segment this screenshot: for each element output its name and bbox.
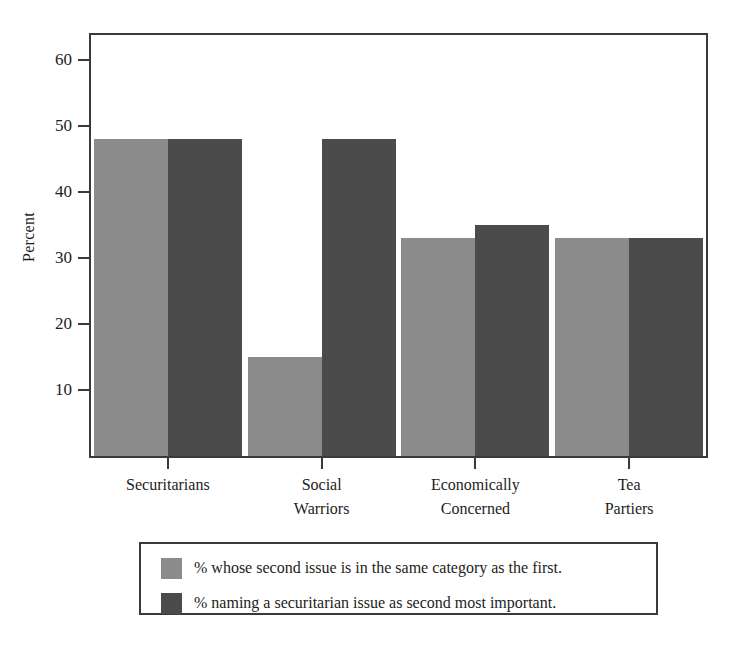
legend-swatch — [161, 593, 182, 614]
y-tick-label: 10 — [28, 378, 72, 402]
x-tick-mark — [321, 458, 323, 469]
legend-swatch — [161, 558, 182, 579]
legend-entry: % whose second issue is in the same cate… — [161, 556, 562, 580]
y-tick-label: 40 — [28, 180, 72, 204]
bar — [629, 238, 703, 456]
bar — [168, 139, 242, 456]
bar — [94, 139, 168, 456]
y-tick-mark — [78, 323, 89, 325]
y-tick-mark — [78, 59, 89, 61]
y-tick-label: 30 — [28, 246, 72, 270]
bar-chart-figure: Percent 102030405060 SecuritariansSocial… — [0, 0, 741, 665]
x-tick-label-line: Partiers — [539, 497, 719, 521]
x-tick-label-line: Tea — [539, 473, 719, 497]
x-tick-label: TeaPartiers — [539, 473, 719, 521]
bar — [322, 139, 396, 456]
x-tick-mark — [628, 458, 630, 469]
legend-label: % whose second issue is in the same cate… — [194, 559, 562, 577]
legend-entry: % naming a securitarian issue as second … — [161, 591, 556, 615]
x-tick-mark — [167, 458, 169, 469]
y-tick-mark — [78, 125, 89, 127]
y-tick-label: 50 — [28, 114, 72, 138]
bar — [401, 238, 475, 456]
y-tick-mark — [78, 191, 89, 193]
bar — [248, 357, 322, 456]
y-tick-label: 60 — [28, 48, 72, 72]
bars-layer — [91, 35, 706, 456]
chart-legend: % whose second issue is in the same cate… — [139, 542, 658, 615]
legend-label: % naming a securitarian issue as second … — [194, 594, 556, 612]
y-tick-mark — [78, 257, 89, 259]
y-tick-label: 20 — [28, 312, 72, 336]
bar — [555, 238, 629, 456]
bar — [475, 225, 549, 456]
y-tick-mark — [78, 389, 89, 391]
x-tick-mark — [474, 458, 476, 469]
